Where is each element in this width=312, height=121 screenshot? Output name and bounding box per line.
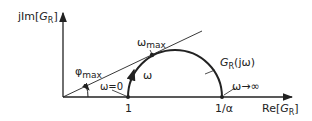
omega-infinity-label: ω→∞	[232, 80, 260, 93]
omega-max-label: ωmax	[137, 36, 167, 50]
omega-zero-label: ω=0	[100, 81, 123, 92]
real-axis-label: Re[GR]	[262, 102, 299, 117]
tick-one-over-alpha-label: 1/α	[215, 102, 233, 115]
tangent-line	[63, 31, 202, 97]
imaginary-axis-label: jIm[GR]	[17, 10, 58, 25]
tick-one-label: 1	[125, 102, 132, 115]
point-one	[126, 95, 130, 99]
omega-direction-label: ω	[143, 69, 152, 82]
nyquist-diagram: jIm[GR] Re[GR] 1 1/α φmax ω=0 ωmax ω GR(…	[0, 0, 312, 121]
phi-max-label: φmax	[75, 65, 103, 80]
point-one-over-alpha	[220, 95, 224, 99]
curve-label: GR(jω)	[220, 56, 255, 71]
curve-label-leader	[205, 70, 215, 74]
